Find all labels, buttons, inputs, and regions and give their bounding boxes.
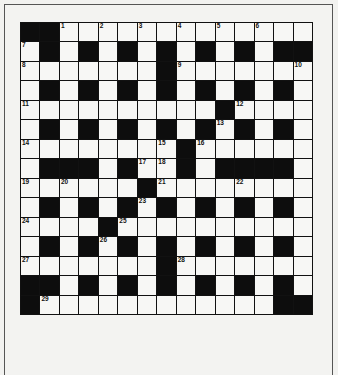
answer-cell[interactable] [274,62,292,80]
answer-cell[interactable]: 12 [235,101,253,119]
answer-cell[interactable] [216,81,234,99]
answer-cell[interactable]: 23 [138,198,156,216]
answer-cell[interactable]: 1 [60,23,78,41]
answer-cell[interactable] [40,179,58,197]
answer-cell[interactable] [196,62,214,80]
answer-cell[interactable] [138,218,156,236]
answer-cell[interactable]: 4 [177,23,195,41]
answer-cell[interactable] [99,159,117,177]
answer-cell[interactable] [79,179,97,197]
answer-cell[interactable]: 22 [235,179,253,197]
answer-cell[interactable] [274,218,292,236]
answer-cell[interactable] [177,296,195,314]
answer-cell[interactable] [79,23,97,41]
answer-cell[interactable] [60,296,78,314]
answer-cell[interactable] [157,23,175,41]
answer-cell[interactable] [138,257,156,275]
answer-cell[interactable]: 17 [138,159,156,177]
answer-cell[interactable] [118,140,136,158]
answer-cell[interactable] [255,296,273,314]
answer-cell[interactable] [177,179,195,197]
answer-cell[interactable] [216,62,234,80]
answer-cell[interactable]: 8 [21,62,39,80]
answer-cell[interactable] [99,198,117,216]
answer-cell[interactable] [118,23,136,41]
answer-cell[interactable] [118,296,136,314]
answer-cell[interactable] [177,81,195,99]
answer-cell[interactable]: 19 [21,179,39,197]
answer-cell[interactable] [157,218,175,236]
answer-cell[interactable] [40,101,58,119]
answer-cell[interactable] [99,140,117,158]
answer-cell[interactable] [79,101,97,119]
answer-cell[interactable] [255,218,273,236]
answer-cell[interactable] [118,101,136,119]
answer-cell[interactable] [138,237,156,255]
answer-cell[interactable] [216,276,234,294]
answer-cell[interactable] [274,257,292,275]
answer-cell[interactable] [294,159,312,177]
answer-cell[interactable] [40,218,58,236]
answer-cell[interactable] [60,62,78,80]
answer-cell[interactable] [138,101,156,119]
answer-cell[interactable] [294,276,312,294]
answer-cell[interactable] [177,42,195,60]
answer-cell[interactable]: 14 [21,140,39,158]
answer-cell[interactable] [235,296,253,314]
answer-cell[interactable] [99,81,117,99]
answer-cell[interactable] [294,218,312,236]
answer-cell[interactable] [99,42,117,60]
answer-cell[interactable] [60,237,78,255]
answer-cell[interactable] [79,296,97,314]
answer-cell[interactable] [235,140,253,158]
answer-cell[interactable] [235,62,253,80]
answer-cell[interactable] [216,296,234,314]
answer-cell[interactable] [177,101,195,119]
answer-cell[interactable] [294,237,312,255]
answer-cell[interactable] [235,218,253,236]
answer-cell[interactable] [216,257,234,275]
answer-cell[interactable] [177,218,195,236]
answer-cell[interactable] [216,179,234,197]
answer-cell[interactable] [21,198,39,216]
answer-cell[interactable] [60,101,78,119]
answer-cell[interactable] [138,120,156,138]
answer-cell[interactable] [60,257,78,275]
answer-cell[interactable] [294,23,312,41]
answer-cell[interactable]: 6 [255,23,273,41]
answer-cell[interactable] [40,62,58,80]
answer-cell[interactable] [99,276,117,294]
answer-cell[interactable]: 3 [138,23,156,41]
answer-cell[interactable]: 29 [40,296,58,314]
answer-cell[interactable]: 5 [216,23,234,41]
answer-cell[interactable]: 27 [21,257,39,275]
answer-cell[interactable] [60,120,78,138]
answer-cell[interactable] [177,237,195,255]
answer-cell[interactable] [216,42,234,60]
answer-cell[interactable] [99,120,117,138]
answer-cell[interactable] [255,276,273,294]
answer-cell[interactable]: 26 [99,237,117,255]
answer-cell[interactable]: 9 [177,62,195,80]
answer-cell[interactable]: 2 [99,23,117,41]
answer-cell[interactable]: 7 [21,42,39,60]
answer-cell[interactable]: 21 [157,179,175,197]
answer-cell[interactable] [255,257,273,275]
answer-cell[interactable]: 15 [157,140,175,158]
answer-cell[interactable] [255,198,273,216]
answer-cell[interactable] [99,257,117,275]
answer-cell[interactable] [177,276,195,294]
answer-cell[interactable] [79,218,97,236]
answer-cell[interactable] [294,179,312,197]
answer-cell[interactable] [294,140,312,158]
answer-cell[interactable]: 18 [157,159,175,177]
answer-cell[interactable] [255,237,273,255]
answer-cell[interactable] [216,218,234,236]
answer-cell[interactable] [294,81,312,99]
answer-cell[interactable] [255,81,273,99]
answer-cell[interactable] [79,257,97,275]
answer-cell[interactable] [274,179,292,197]
answer-cell[interactable] [216,237,234,255]
answer-cell[interactable] [99,179,117,197]
answer-cell[interactable]: 13 [216,120,234,138]
